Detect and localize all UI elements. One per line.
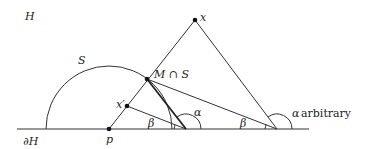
label-boundary: ∂H <box>23 135 39 148</box>
line-x-to-outer-vertex <box>195 20 277 129</box>
label-sphere: S <box>78 54 86 67</box>
point-p-dot <box>107 127 112 132</box>
hyperbolic-halfplane-diagram: H ∂H S x x′ p M ∩ S α β β α arbitrary <box>0 0 367 149</box>
point-intersection-dot <box>145 77 150 82</box>
label-alpha-inner: α <box>194 106 202 119</box>
label-halfplane: H <box>24 10 35 23</box>
label-alpha-right-symbol: α <box>292 107 300 120</box>
label-beta-right: β <box>239 117 246 130</box>
label-point-x: x <box>200 11 207 24</box>
angle-beta-left-arc <box>174 125 175 129</box>
point-x-dot <box>193 18 198 23</box>
label-beta-left: β <box>147 117 154 130</box>
label-intersection: M ∩ S <box>153 68 189 81</box>
point-xprime-dot <box>125 104 130 109</box>
label-point-xprime: x′ <box>116 98 125 111</box>
label-point-p: p <box>106 133 113 146</box>
angle-beta-right-arc <box>265 124 266 129</box>
label-alpha-right-text: arbitrary <box>301 107 352 120</box>
